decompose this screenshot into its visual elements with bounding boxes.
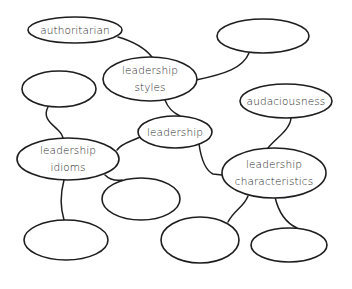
node-ellipse: [222, 148, 326, 198]
node-ellipse: [102, 178, 180, 220]
node-left-empty: [22, 71, 96, 107]
node-ellipse: [240, 84, 332, 118]
node-leadership-styles: [103, 57, 197, 101]
connector-leadership-characteristics-to-bottom-right-empty: [275, 197, 297, 228]
connector-leadership-to-leadership-idioms: [117, 137, 140, 150]
connector-leadership-characteristics-to-bottom-middle-empty: [228, 196, 248, 222]
node-audaciousness: [240, 84, 332, 118]
node-bottom-middle-empty: [161, 217, 239, 263]
node-ellipse: [217, 19, 309, 53]
node-leadership: [138, 116, 212, 148]
node-leadership-idioms: [17, 138, 119, 180]
connector-authoritarian-to-leadership-styles: [118, 37, 152, 57]
connector-leadership-to-leadership-characteristics: [199, 144, 222, 175]
connector-top-right-empty-to-leadership-styles: [196, 53, 249, 80]
node-ellipse: [28, 17, 122, 43]
node-leadership-characteristics: [222, 148, 326, 198]
node-top-right-empty: [217, 19, 309, 53]
node-middle-empty: [102, 178, 180, 220]
connector-leadership-styles-to-leadership: [165, 100, 180, 116]
node-ellipse: [138, 116, 212, 148]
connector-left-empty-to-leadership-idioms: [46, 107, 63, 139]
node-authoritarian: [28, 17, 122, 43]
node-ellipse: [17, 138, 119, 180]
node-ellipse: [251, 228, 327, 262]
node-ellipse: [161, 217, 239, 263]
node-ellipse: [22, 71, 96, 107]
node-bottom-right-empty: [251, 228, 327, 262]
mind-map-canvas: [0, 0, 352, 289]
nodes-layer: [17, 17, 332, 263]
connector-leadership-idioms-to-bottom-left-empty: [61, 180, 64, 220]
node-bottom-left-empty: [24, 220, 108, 260]
node-ellipse: [103, 57, 197, 101]
connector-leadership-idioms-to-middle-empty: [105, 175, 122, 180]
node-ellipse: [24, 220, 108, 260]
connector-audaciousness-to-leadership-characteristics: [268, 118, 291, 148]
